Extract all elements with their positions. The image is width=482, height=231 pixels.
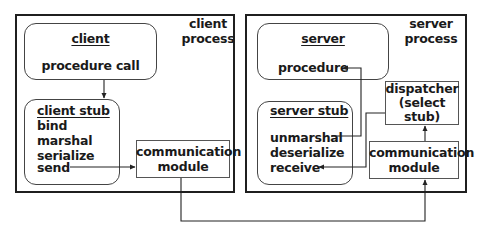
arrow-unmarshal-to-procedure	[331, 68, 361, 136]
arrow-network-link	[181, 178, 425, 221]
arrow-dispatcher-to-receive	[319, 113, 385, 167]
connector-lines	[0, 0, 482, 231]
